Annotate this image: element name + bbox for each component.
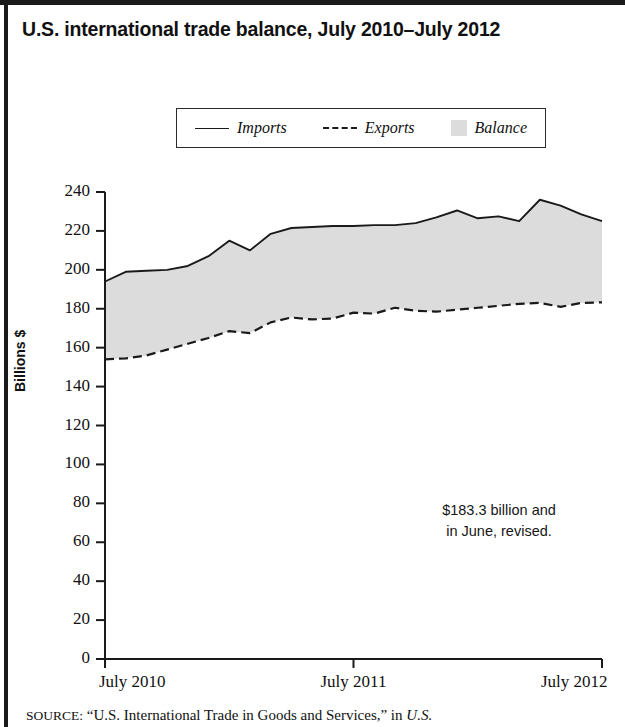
y-tick-label: 220: [44, 220, 90, 240]
balance-area: [105, 200, 602, 360]
x-tick-label: July 2011: [321, 672, 387, 692]
y-tick-label: 0: [44, 648, 90, 668]
y-tick-label: 200: [44, 259, 90, 279]
x-tick-label: July 2012: [541, 672, 608, 692]
x-tick-label: July 2010: [99, 672, 166, 692]
y-tick-label: 240: [44, 181, 90, 201]
source-note: SOURCE: “U.S. International Trade in Goo…: [26, 707, 432, 724]
annotation-line-1: $183.3 billion and: [442, 502, 556, 518]
chart-annotation: $183.3 billion and in June, revised.: [404, 500, 594, 542]
y-tick-label: 160: [44, 337, 90, 357]
source-prefix: SOURCE:: [26, 708, 83, 723]
y-tick-label: 100: [44, 453, 90, 473]
y-tick-label: 40: [44, 570, 90, 590]
y-tick-label: 20: [44, 609, 90, 629]
chart-plot-area: [0, 0, 625, 727]
y-tick-label: 80: [44, 492, 90, 512]
y-tick-label: 180: [44, 298, 90, 318]
trade-balance-figure: U.S. international trade balance, July 2…: [0, 0, 625, 727]
y-tick-label: 120: [44, 415, 90, 435]
source-italic: U.S.: [406, 707, 432, 723]
y-tick-label: 60: [44, 531, 90, 551]
y-tick-label: 140: [44, 376, 90, 396]
source-text: “U.S. International Trade in Goods and S…: [87, 707, 403, 723]
annotation-line-2: in June, revised.: [446, 523, 552, 539]
